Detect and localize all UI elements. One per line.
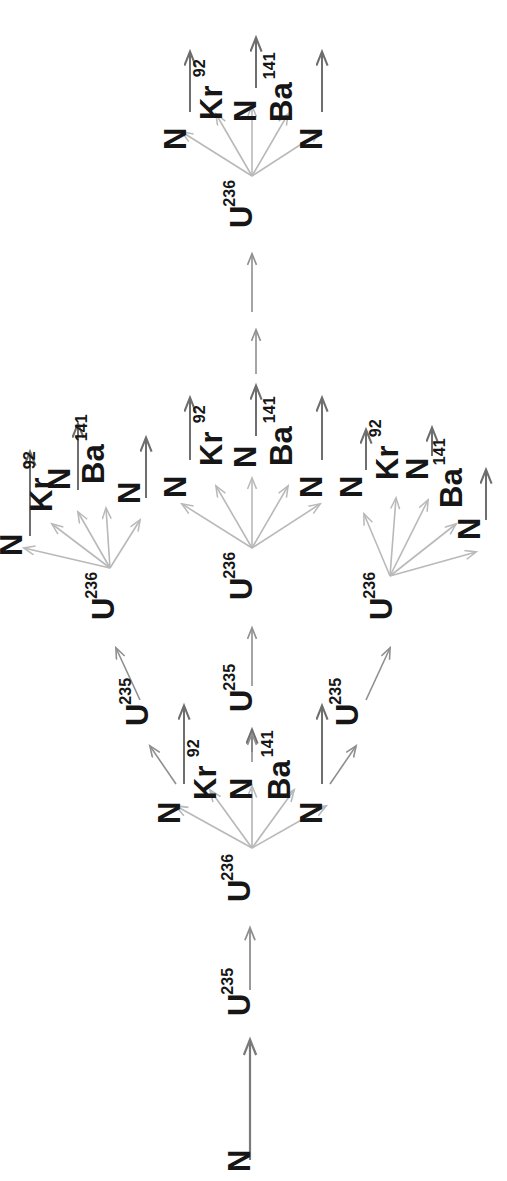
edge-fission-right-4	[390, 552, 476, 576]
node-label: N	[42, 468, 77, 490]
node-label: N	[294, 476, 329, 498]
node-kr: Kr92	[190, 405, 229, 466]
node-label: N	[158, 476, 193, 498]
node-u235: U235	[116, 678, 155, 726]
node-label: N	[112, 482, 147, 504]
node-neutron: N	[294, 476, 329, 498]
edge-fission-top-1	[216, 114, 252, 176]
node-label: N	[0, 534, 29, 556]
node-label: N	[228, 100, 263, 122]
node-neutron: N	[294, 128, 329, 150]
edge-fission-right-3	[390, 524, 456, 576]
diagram-canvas: NU235U236NKr92NBa141NU235U235U235U236U23…	[0, 0, 507, 1181]
edge-fission-left-2	[78, 512, 110, 568]
node-ba: Ba141	[260, 396, 299, 466]
node-label: N	[334, 476, 369, 498]
node-label: N	[222, 1150, 257, 1172]
mass-number: 236	[218, 854, 236, 881]
mass-number: 92	[20, 451, 38, 469]
mass-number: 236	[360, 572, 378, 599]
edge-u235-to-u236-right	[366, 648, 390, 700]
node-label: U	[86, 598, 121, 620]
edge-fission-mid-0	[182, 504, 252, 548]
mass-number: 235	[220, 664, 238, 691]
node-ba: Ba141	[430, 438, 469, 508]
node-neutron: N	[334, 476, 369, 498]
node-neutron: N	[158, 128, 193, 150]
mass-number: 141	[260, 396, 278, 423]
node-label: U	[224, 690, 259, 712]
node-label: Ba	[434, 468, 469, 508]
node-label: N	[452, 518, 487, 540]
fission-chain-diagram: NU235U236NKr92NBa141NU235U235U235U236U23…	[0, 0, 507, 1181]
mass-number: 236	[220, 180, 238, 207]
node-label: N	[228, 446, 263, 468]
node-label: Ba	[264, 426, 299, 466]
edge-fission-mid-4	[252, 504, 320, 548]
edge-fission-mid-3	[252, 486, 288, 548]
node-neutron: N	[294, 802, 329, 824]
node-neutron: N	[152, 802, 187, 824]
node-u236: U236	[218, 854, 257, 902]
node-label: Kr	[194, 432, 229, 466]
node-kr: Kr92	[190, 59, 229, 120]
node-u235: U235	[326, 678, 365, 726]
node-u236: U236	[82, 572, 121, 620]
mass-number: 236	[82, 572, 100, 599]
mass-number: 92	[190, 59, 208, 77]
node-kr: Kr92	[184, 739, 223, 800]
node-label: Ba	[76, 444, 111, 484]
node-label: N	[294, 802, 329, 824]
node-label: U	[222, 994, 257, 1016]
node-neutron: N	[112, 482, 147, 504]
node-ba: Ba141	[72, 414, 111, 484]
node-label: U	[224, 578, 259, 600]
node-neutron: N	[228, 446, 263, 468]
node-neutron: N	[452, 518, 487, 540]
mass-number: 141	[430, 438, 448, 465]
node-u236: U236	[220, 552, 259, 600]
node-label: N	[294, 128, 329, 150]
edge-fission-left-4	[110, 520, 140, 568]
mass-number: 235	[326, 678, 344, 705]
node-neutron: N	[222, 1150, 257, 1172]
mass-number: 141	[260, 52, 278, 79]
node-neutron: N	[0, 534, 29, 556]
edge-fission-mid-1	[216, 486, 252, 548]
mass-number: 141	[72, 414, 90, 441]
node-label: Kr	[194, 86, 229, 120]
node-label: Ba	[262, 760, 297, 800]
node-label: U	[330, 704, 365, 726]
node-neutron: N	[228, 100, 263, 122]
edge-fission-left-3	[106, 508, 110, 568]
node-u236: U236	[220, 180, 259, 228]
edge-neutron-to-u235-right	[330, 746, 356, 784]
edge-neutron-to-u235-left	[150, 746, 176, 784]
node-neutron: N	[224, 778, 259, 800]
node-label: N	[224, 778, 259, 800]
node-label: U	[364, 598, 399, 620]
label-layer: NU235U236NKr92NBa141NU235U235U235U236U23…	[0, 52, 487, 1172]
mass-number: 235	[116, 678, 134, 705]
node-label: N	[158, 128, 193, 150]
node-u236: U236	[360, 572, 399, 620]
edge-fission-gen1-0	[176, 806, 252, 848]
node-ba: Ba141	[260, 52, 299, 122]
node-label: U	[222, 880, 257, 902]
node-u235: U235	[220, 664, 259, 712]
node-ba: Ba141	[258, 730, 297, 800]
mass-number: 92	[366, 419, 384, 437]
mass-number: 92	[190, 405, 208, 423]
node-label: N	[152, 802, 187, 824]
edge-fission-top-3	[252, 114, 288, 176]
node-label: Ba	[264, 82, 299, 122]
mass-number: 141	[258, 730, 276, 757]
edge-fission-right-0	[364, 514, 390, 576]
mass-number: 235	[218, 968, 236, 995]
mass-number: 236	[220, 552, 238, 579]
node-neutron: N	[158, 476, 193, 498]
node-label: Kr	[188, 766, 223, 800]
node-label: U	[224, 206, 259, 228]
node-label: U	[120, 704, 155, 726]
node-neutron: N	[42, 468, 77, 490]
